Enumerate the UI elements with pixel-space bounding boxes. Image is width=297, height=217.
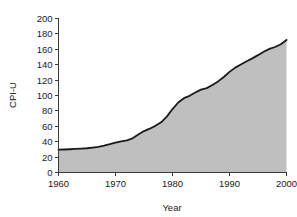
x-axis-title: Year — [162, 202, 181, 213]
cpi-area-chart: 020406080100120140160180200 196019701980… — [0, 0, 297, 217]
y-tick-label: 100 — [37, 90, 53, 101]
y-axis-title: CPI-U — [7, 82, 18, 108]
x-tick-label: 1980 — [162, 178, 183, 189]
y-tick-label: 180 — [37, 28, 53, 39]
chart-figure: 020406080100120140160180200 196019701980… — [0, 0, 297, 217]
y-tick-labels: 020406080100120140160180200 — [37, 13, 53, 178]
y-tick-label: 200 — [37, 13, 53, 24]
x-tick-label: 1990 — [219, 178, 240, 189]
x-tick-marks — [59, 173, 287, 177]
y-tick-label: 40 — [42, 136, 53, 147]
x-tick-label: 2000 — [276, 178, 297, 189]
y-tick-label: 60 — [42, 121, 53, 132]
x-tick-labels: 19601970198019902000 — [48, 178, 297, 189]
x-tick-label: 1970 — [105, 178, 126, 189]
y-tick-label: 120 — [37, 75, 53, 86]
y-tick-label: 140 — [37, 59, 53, 70]
y-tick-label: 20 — [42, 152, 53, 163]
y-tick-label: 80 — [42, 105, 53, 116]
y-tick-label: 0 — [47, 167, 52, 178]
x-tick-label: 1960 — [48, 178, 69, 189]
area-fill — [59, 40, 287, 173]
y-tick-label: 160 — [37, 44, 53, 55]
